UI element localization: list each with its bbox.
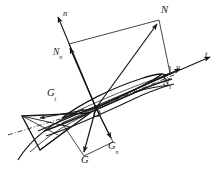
vector-label-G-t: Gt [47,88,56,100]
normal-force-parallelogram [69,20,170,108]
vector-label-N-n: Nn [53,48,62,59]
point-label-O: O [93,109,101,120]
vector-label-N-n-sub: n [59,54,62,60]
axis-t [38,57,210,131]
vector-label-G-n: Gn [108,141,119,153]
vector-label-v: v [176,63,180,72]
vector-label-G-n-sub: n [116,149,119,155]
axis-label-n: n [63,9,67,18]
vector-label-N-t-sub: t [169,84,171,90]
axis-label-t: t [205,50,207,59]
vector-label-N-t: Nt [163,78,171,89]
vector-label-G: G [81,155,89,166]
force-decomposition-figure: n t v N Nn Nt Gt G Gn O [0,0,219,176]
vector-label-G-n-base: G [108,140,116,151]
vector-label-G-t-base: G [47,87,55,98]
vector-label-N: N [161,5,168,16]
vector-N-n [70,48,96,108]
